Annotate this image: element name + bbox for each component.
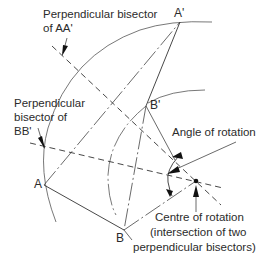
centre-label-line3: perpendicular bisectors) [133, 241, 256, 254]
point-b-prime-label: B' [150, 99, 160, 112]
bisector-bb-label-line2: bisector of [14, 111, 67, 124]
bisector-aa-label-line2: of AA' [43, 22, 73, 35]
point-a-prime-label: A' [174, 7, 184, 20]
point-b-label: B [116, 232, 124, 245]
centre-point [194, 179, 199, 184]
angle-of-rotation-label: Angle of rotation [172, 126, 256, 139]
bisector-aa-arrow [62, 45, 68, 56]
bisector-bb-label-line1: Perpendicular [14, 97, 85, 110]
radius-b-prime [146, 106, 175, 160]
bisector-bb-arrow [38, 136, 45, 149]
bisector-bb-label-line3: BB' [14, 125, 32, 138]
label-leader-b [124, 230, 132, 240]
centre-label-line1: Centre of rotation [155, 211, 244, 224]
arc-aa [44, 22, 213, 222]
angle-leader [174, 142, 236, 170]
bisector-aa-label-line1: Perpendicular bisector [43, 8, 157, 21]
centre-arrow [193, 185, 199, 197]
arc-bb-left [108, 106, 146, 215]
point-a-label: A [34, 178, 42, 191]
side-a-b [44, 185, 124, 230]
centre-label-line2: (intersection of two [150, 226, 247, 239]
side-a-prime-b-prime [146, 22, 180, 106]
